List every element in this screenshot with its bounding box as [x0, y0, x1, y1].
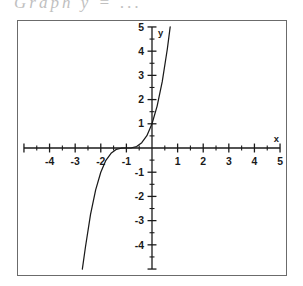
y-tick-label: -1: [135, 167, 144, 178]
y-tick-label: 3: [138, 70, 144, 81]
x-axis-label: x: [274, 133, 280, 144]
x-tick-label: 4: [252, 156, 258, 167]
x-tick-label: 3: [226, 156, 232, 167]
y-tick-label: 5: [138, 22, 144, 33]
plot-frame: -4-3-2-112345 54321-1-2-3-4 x y: [17, 20, 287, 276]
x-tick-label: -3: [71, 156, 80, 167]
cropped-title-fragment: Graph y = ...: [14, 0, 264, 15]
x-axis-tick-labels: -4-3-2-112345: [45, 156, 283, 167]
x-tick-label: -1: [122, 156, 131, 167]
cartesian-plot: -4-3-2-112345 54321-1-2-3-4 x y: [18, 21, 286, 275]
x-tick-label: 1: [175, 156, 181, 167]
x-tick-label: -4: [45, 156, 54, 167]
y-tick-label: -3: [135, 215, 144, 226]
x-tick-label: 2: [200, 156, 206, 167]
y-axis-tick-labels: 54321-1-2-3-4: [135, 22, 144, 251]
y-tick-label: 2: [138, 94, 144, 105]
y-axis-label: y: [158, 27, 164, 38]
y-tick-label: 4: [138, 46, 144, 57]
graph-page: Graph y = ... -4-3-2-112345 54321-1-2-3-…: [0, 0, 303, 286]
y-tick-label: -2: [135, 191, 144, 202]
y-tick-label: 1: [138, 118, 144, 129]
y-tick-label: -4: [135, 240, 144, 251]
x-tick-label: 5: [277, 156, 283, 167]
